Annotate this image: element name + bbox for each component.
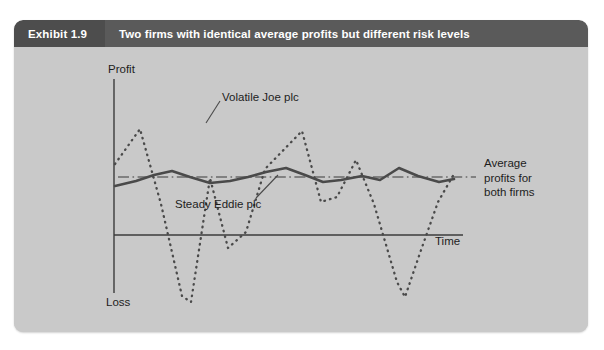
average-profits-label-line-1: Average	[484, 156, 535, 171]
steady-label-leader-line	[256, 175, 278, 198]
volatile-label-leader-line	[206, 101, 220, 123]
exhibit-title-label: Two firms with identical average profits…	[119, 28, 470, 40]
y-axis-loss-label: Loss	[106, 295, 130, 309]
average-profits-label-line-2: profits for	[484, 171, 535, 186]
exhibit-header: Exhibit 1.9 Two firms with identical ave…	[14, 20, 588, 47]
average-profits-label: Average profits for both firms	[484, 156, 535, 200]
y-axis-profit-label: Profit	[108, 62, 135, 76]
exhibit-title-box: Two firms with identical average profits…	[105, 20, 588, 47]
volatile-joe-label: Volatile Joe plc	[222, 91, 299, 103]
chart-plot-area: Profit Loss Time Volatile Joe plc Steady…	[14, 47, 588, 332]
exhibit-number-label: Exhibit 1.9	[28, 28, 87, 40]
volatile-joe-series	[115, 129, 454, 302]
average-profits-label-line-3: both firms	[484, 185, 535, 200]
exhibit-number-box: Exhibit 1.9	[14, 20, 105, 47]
steady-eddie-label: Steady Eddie plc	[175, 198, 261, 210]
exhibit-panel: Exhibit 1.9 Two firms with identical ave…	[14, 20, 588, 332]
x-axis-time-label: Time	[435, 234, 460, 248]
